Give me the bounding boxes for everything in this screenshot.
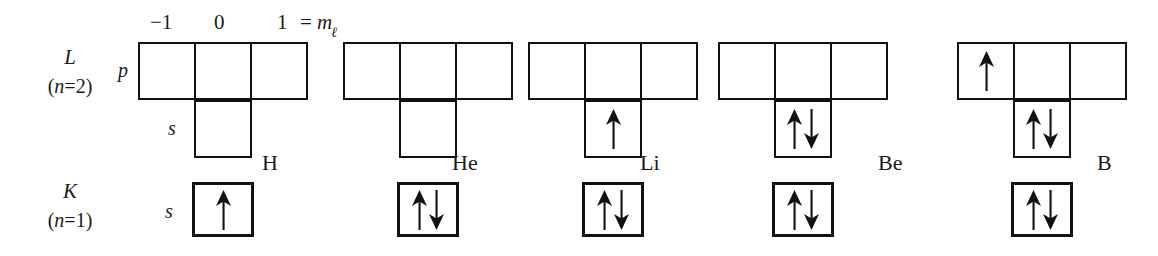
orbital-cell-1s[interactable] — [1011, 182, 1073, 237]
orbital-cell-2p[interactable] — [1013, 42, 1071, 100]
orbital-cell-1s[interactable] — [192, 182, 254, 237]
orbital-cell-2s[interactable] — [584, 100, 642, 158]
equals-sign: = — [300, 10, 312, 34]
paren-close: ) — [86, 209, 93, 231]
subshell-label-1s: s — [165, 201, 173, 221]
spin-up-arrow — [605, 108, 622, 150]
m-symbol: m — [317, 10, 332, 34]
spin-down-arrow — [1042, 108, 1059, 150]
n-italic: n — [54, 75, 64, 97]
electron-arrows — [585, 185, 641, 234]
element-symbol-h: H — [262, 152, 278, 174]
orbital-cell-2p[interactable] — [138, 42, 196, 100]
n-value: =2 — [64, 75, 85, 97]
spin-up-arrow — [596, 189, 613, 231]
orbital-cell-2p[interactable] — [250, 42, 308, 100]
orbital-cell-2p[interactable] — [528, 42, 586, 100]
orbital-cell-1s[interactable] — [772, 182, 834, 237]
orbital-cell-2p[interactable] — [957, 42, 1015, 100]
orbital-cell-2p[interactable] — [774, 42, 832, 100]
orbital-cell-2p[interactable] — [830, 42, 888, 100]
shell-quantum-number-L: (n=2) — [24, 76, 116, 96]
orbital-cell-2p[interactable] — [399, 42, 457, 100]
electron-arrows — [195, 185, 251, 234]
shell-quantum-number-K: (n=1) — [24, 210, 116, 230]
shell-label-L: L — [40, 47, 100, 68]
spin-up-arrow — [1025, 189, 1042, 231]
shell-label-K: K — [40, 181, 100, 202]
element-symbol-li: Li — [640, 152, 660, 174]
orbital-diagram-figure: L (n=2) K (n=1) p s s −1 0 1 = mℓ HHeLiB… — [0, 0, 1158, 256]
element-symbol-he: He — [452, 152, 478, 174]
spin-down-arrow — [803, 108, 820, 150]
electron-arrows — [776, 102, 830, 156]
element-symbol-be: Be — [878, 152, 902, 174]
element-symbol-b: B — [1097, 152, 1112, 174]
electron-arrows — [959, 44, 1013, 98]
m-value-minus-one: −1 — [150, 12, 172, 33]
orbital-cell-1s[interactable] — [582, 182, 644, 237]
orbital-cell-2p[interactable] — [1069, 42, 1127, 100]
m-quantum-number-legend: = mℓ — [300, 12, 338, 37]
orbital-cell-2p[interactable] — [718, 42, 776, 100]
m-value-plus-one: 1 — [277, 12, 288, 33]
spin-down-arrow — [803, 189, 820, 231]
spin-down-arrow — [1042, 189, 1059, 231]
orbital-cell-2s[interactable] — [1013, 100, 1071, 158]
spin-up-arrow — [215, 189, 232, 231]
m-subscript-ell: ℓ — [331, 25, 337, 40]
spin-up-arrow — [786, 108, 803, 150]
m-value-zero: 0 — [214, 12, 225, 33]
orbital-cell-2p[interactable] — [343, 42, 401, 100]
electron-arrows — [400, 185, 456, 234]
orbital-cell-2p[interactable] — [194, 42, 252, 100]
orbital-cell-1s[interactable] — [397, 182, 459, 237]
spin-up-arrow — [1025, 108, 1042, 150]
electron-arrows — [586, 102, 640, 156]
orbital-cell-2s[interactable] — [194, 100, 252, 158]
electron-arrows — [1015, 102, 1069, 156]
spin-down-arrow — [613, 189, 630, 231]
orbital-cell-2s[interactable] — [399, 100, 457, 158]
orbital-cell-2s[interactable] — [774, 100, 832, 158]
paren-close: ) — [86, 75, 93, 97]
spin-down-arrow — [428, 189, 445, 231]
orbital-cell-2p[interactable] — [455, 42, 513, 100]
subshell-label-2s: s — [168, 118, 176, 138]
n-value: =1 — [64, 209, 85, 231]
subshell-label-p: p — [118, 60, 128, 80]
electron-arrows — [775, 185, 831, 234]
spin-up-arrow — [786, 189, 803, 231]
orbital-cell-2p[interactable] — [640, 42, 698, 100]
spin-up-arrow — [411, 189, 428, 231]
orbital-cell-2p[interactable] — [584, 42, 642, 100]
spin-up-arrow — [978, 50, 995, 92]
n-italic: n — [54, 209, 64, 231]
electron-arrows — [1014, 185, 1070, 234]
